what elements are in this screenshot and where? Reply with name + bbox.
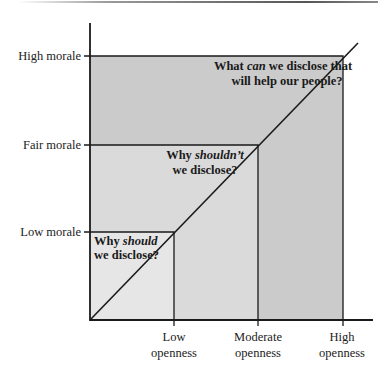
x-label-low-line1: Low — [163, 330, 186, 344]
y-label-low-morale: Low morale — [20, 225, 81, 239]
x-label-moderate-line1: Moderate — [234, 330, 282, 344]
x-label-high-line1: High — [330, 330, 356, 344]
zone-low-question-line1: Why should — [94, 234, 158, 248]
y-label-high-morale: High morale — [18, 49, 81, 63]
zone-fair-question-line1: Why shouldn’t — [166, 148, 244, 162]
y-label-fair-morale: Fair morale — [23, 138, 81, 152]
zone-high-question-line2: will help our people? — [231, 74, 342, 88]
zone-high-question-line1: What can we disclose that — [214, 59, 353, 73]
morale-openness-diagram: High morale Fair morale Low morale Low o… — [0, 0, 392, 377]
x-label-moderate-line2: openness — [235, 346, 281, 360]
x-label-high-line2: openness — [319, 346, 365, 360]
zone-low-question-line2: we disclose? — [94, 248, 159, 262]
x-label-low-line2: openness — [151, 346, 197, 360]
zone-fair-question-line2: we disclose? — [173, 163, 238, 177]
